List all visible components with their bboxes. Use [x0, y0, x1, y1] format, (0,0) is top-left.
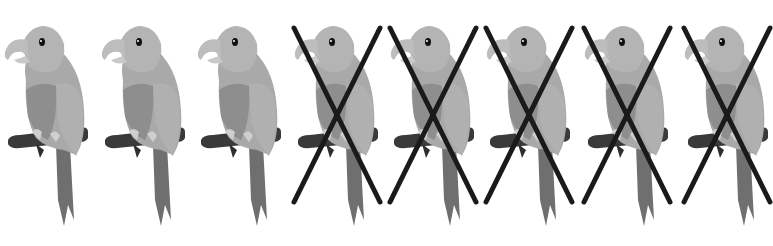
parrot [0, 0, 100, 246]
x-mark-icon [680, 0, 773, 246]
crossed-out-parrot [680, 0, 773, 246]
parrot [193, 0, 293, 246]
x-mark-icon [482, 0, 582, 246]
crossed-out-parrot [386, 0, 486, 246]
parrot-row [0, 0, 773, 246]
parrot [97, 0, 197, 246]
crossed-out-parrot [580, 0, 680, 246]
parrot-icon [97, 0, 197, 246]
x-mark-icon [386, 0, 486, 246]
x-mark-icon [580, 0, 680, 246]
crossed-out-parrot [290, 0, 390, 246]
crossed-out-parrot [482, 0, 582, 246]
x-mark-icon [290, 0, 390, 246]
parrot-icon [193, 0, 293, 246]
parrot-icon [0, 0, 100, 246]
